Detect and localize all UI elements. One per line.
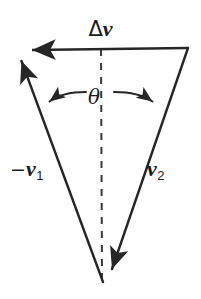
label-theta: θ [88, 87, 100, 107]
v1-subscript: 1 [36, 168, 43, 183]
v1-variable: v [26, 156, 36, 181]
label-v2: v2 [147, 158, 165, 182]
label-delta-v: Δv [0, 18, 201, 40]
vector-delta-v-line [32, 48, 188, 50]
delta-symbol: Δ [88, 17, 102, 41]
label-minus-v1: −v1 [10, 158, 43, 182]
dashed-bisector-line [101, 49, 102, 280]
minus-sign: − [10, 158, 26, 180]
theta-arc-left [50, 92, 87, 102]
v2-variable: v [147, 156, 157, 181]
delta-v-variable: v [103, 16, 113, 41]
vector-diagram: Δv θ −v1 v2 [0, 0, 201, 299]
v2-subscript: 2 [157, 168, 164, 183]
theta-arc-right [114, 92, 153, 102]
vector-diagram-canvas [0, 0, 201, 299]
